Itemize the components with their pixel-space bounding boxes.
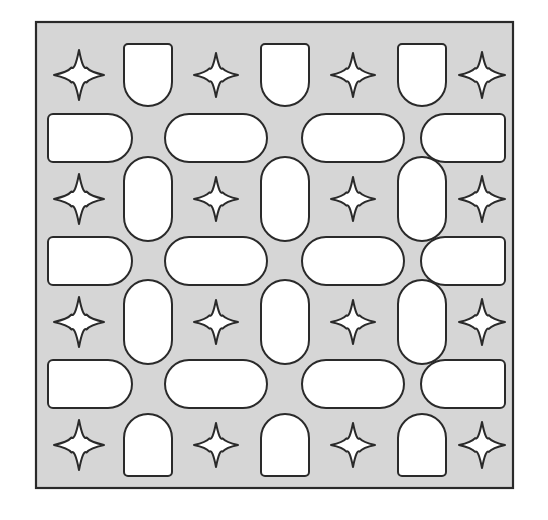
hole-u-shape-flat-top-round-bottom-r1c6 xyxy=(398,44,446,106)
hole-horizontal-capsule-r4c3 xyxy=(302,237,404,285)
hole-d-shape-flat-right-r6c4 xyxy=(421,360,505,408)
hole-horizontal-capsule-r2c2 xyxy=(165,114,267,162)
hole-d-shape-flat-right-r2c4 xyxy=(421,114,505,162)
hole-vertical-capsule-r5c4 xyxy=(261,280,309,364)
perforated-panel-figure xyxy=(0,0,548,520)
hole-vertical-capsule-r3c4 xyxy=(261,157,309,241)
hole-d-shape-flat-left-r2c1 xyxy=(48,114,132,162)
screenshot-root xyxy=(0,0,548,520)
hole-d-shape-flat-left-r6c1 xyxy=(48,360,132,408)
hole-arch-round-top-flat-bottom-r7c6 xyxy=(398,414,446,476)
hole-horizontal-capsule-r4c2 xyxy=(165,237,267,285)
hole-horizontal-capsule-r2c3 xyxy=(302,114,404,162)
hole-d-shape-flat-left-r4c1 xyxy=(48,237,132,285)
hole-vertical-capsule-r3c2 xyxy=(124,157,172,241)
hole-d-shape-flat-right-r4c4 xyxy=(421,237,505,285)
hole-vertical-capsule-r3c6 xyxy=(398,157,446,241)
hole-arch-round-top-flat-bottom-r7c4 xyxy=(261,414,309,476)
hole-vertical-capsule-r5c2 xyxy=(124,280,172,364)
hole-vertical-capsule-r5c6 xyxy=(398,280,446,364)
hole-u-shape-flat-top-round-bottom-r1c2 xyxy=(124,44,172,106)
hole-u-shape-flat-top-round-bottom-r1c4 xyxy=(261,44,309,106)
hole-horizontal-capsule-r6c2 xyxy=(165,360,267,408)
hole-arch-round-top-flat-bottom-r7c2 xyxy=(124,414,172,476)
hole-horizontal-capsule-r6c3 xyxy=(302,360,404,408)
